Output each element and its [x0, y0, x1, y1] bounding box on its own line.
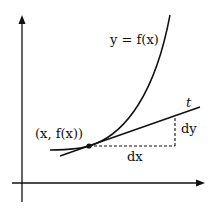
x-axis: [12, 180, 205, 187]
y-axis-arrow-icon: [19, 15, 26, 24]
x-axis-arrow-icon: [196, 180, 205, 187]
tangent-label: t: [186, 96, 191, 109]
y-axis: [19, 15, 26, 202]
tangent-point-dot: [86, 143, 91, 148]
curve-label: y = f(x): [110, 33, 159, 46]
dx-label: dx: [127, 150, 143, 163]
point-label: (x, f(x)): [35, 127, 83, 140]
diagram-canvas: y = f(x) (x, f(x)) t dx dy: [0, 0, 211, 211]
dy-label: dy: [181, 122, 197, 135]
diagram-svg: [0, 0, 211, 211]
